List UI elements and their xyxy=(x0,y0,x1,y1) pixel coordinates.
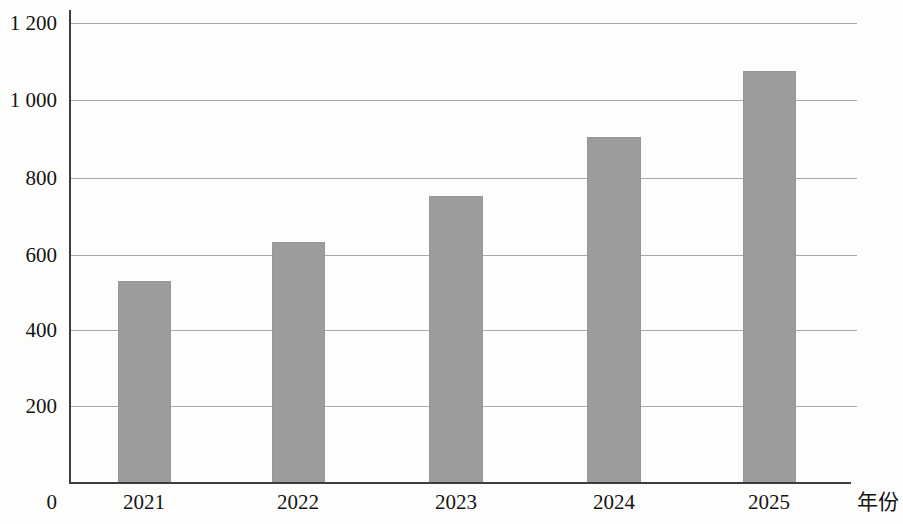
y-tick-label-0: 0 xyxy=(0,490,57,514)
x-tick-label-2021: 2021 xyxy=(104,490,184,514)
y-tick-label-600: 600 xyxy=(0,245,57,266)
x-tick-label-2025: 2025 xyxy=(729,490,809,514)
bar-2022 xyxy=(272,242,325,483)
y-tick-label-400: 400 xyxy=(0,320,57,341)
bar-2024 xyxy=(587,137,641,483)
bar-2021 xyxy=(118,281,171,483)
x-axis-line xyxy=(69,482,851,484)
bar-2025 xyxy=(743,71,796,483)
y-tick-label-800: 800 xyxy=(0,168,57,189)
gridline-1200 xyxy=(70,23,857,24)
x-tick-label-2022: 2022 xyxy=(258,490,338,514)
y-tick-label-1200: 1 200 xyxy=(0,13,57,34)
bar-chart: 1 200 1 000 800 600 400 200 0 2021 2022 … xyxy=(0,0,903,524)
x-tick-label-2024: 2024 xyxy=(574,490,654,514)
y-axis-line xyxy=(69,10,71,484)
gridline-1000 xyxy=(70,100,857,101)
plot-area xyxy=(70,23,857,483)
gridline-800 xyxy=(70,178,857,179)
bar-2023 xyxy=(429,196,483,483)
x-tick-label-2023: 2023 xyxy=(416,490,496,514)
y-tick-label-1000: 1 000 xyxy=(0,90,57,111)
y-tick-label-200: 200 xyxy=(0,396,57,417)
x-axis-title: 年份 xyxy=(857,490,899,514)
